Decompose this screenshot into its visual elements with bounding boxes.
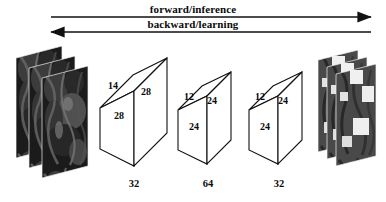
layer-3-slab [247, 68, 305, 168]
layer-1-depth-label: 14 [108, 80, 118, 91]
forward-inference-label: forward/inference [0, 3, 386, 15]
layer-3-depth-label: 12 [255, 91, 265, 102]
layer-1-side-label: 28 [114, 110, 124, 121]
output-segmentation-slices [318, 50, 384, 168]
backward-learning-label: backward/learning [0, 18, 386, 30]
layer-2-side-label: 24 [189, 121, 199, 132]
input-slices-svg [16, 46, 96, 178]
input-slice-1 [42, 66, 88, 178]
layer-3-top-label: 24 [278, 95, 288, 106]
layer-1-top-label: 28 [141, 86, 151, 97]
layer-2-channels-label: 64 [182, 178, 234, 189]
output-slices-svg [318, 50, 384, 168]
layer-2-slab [176, 68, 234, 168]
output-slice-1 [336, 64, 376, 166]
layer-1-slab [98, 53, 170, 171]
layer-1-channels-label: 32 [108, 178, 160, 189]
layer-3-channels-label: 32 [253, 178, 305, 189]
input-image-slices [16, 46, 96, 178]
layer-2-top-label: 24 [207, 95, 217, 106]
cnn-architecture-figure: forward/inference backward/learning [0, 0, 386, 202]
layer-2-depth-label: 12 [184, 91, 194, 102]
layer-3-side-label: 24 [260, 121, 270, 132]
